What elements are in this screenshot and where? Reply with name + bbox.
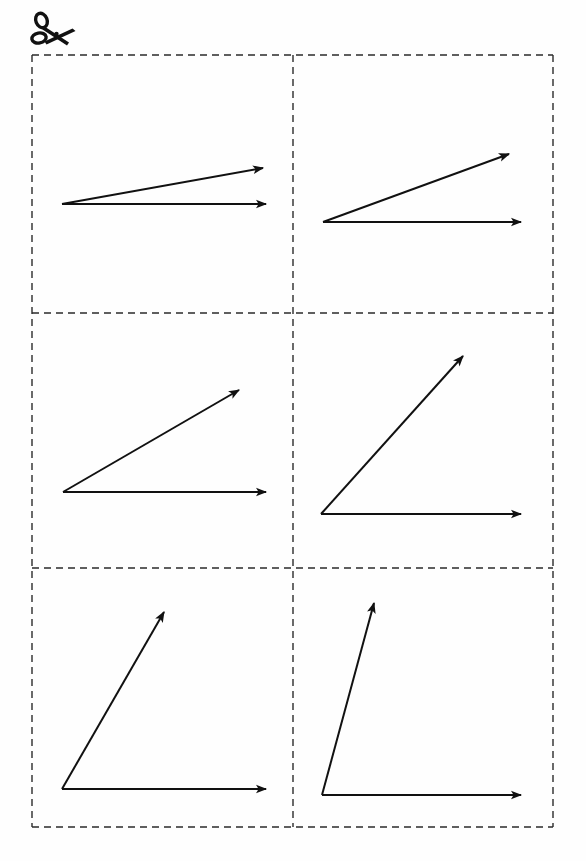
worksheet-page [0, 0, 586, 861]
scissors-pivot [54, 32, 58, 36]
worksheet-canvas [0, 0, 586, 861]
